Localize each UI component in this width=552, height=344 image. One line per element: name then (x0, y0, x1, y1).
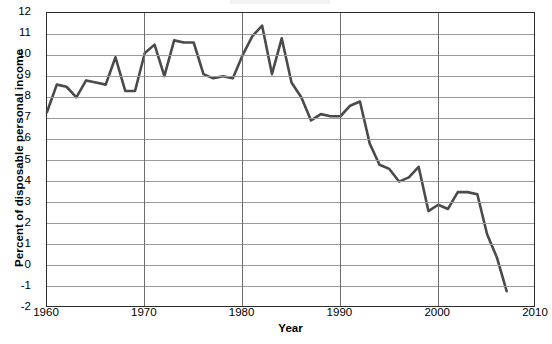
gridline-horizontal (47, 76, 534, 77)
y-tick-label: 7 (5, 111, 31, 123)
y-tick-label: 12 (5, 6, 31, 18)
y-tick-label: 4 (5, 175, 31, 187)
y-tick-label: 1 (5, 238, 31, 250)
plot-area (46, 12, 535, 307)
gridline-vertical (438, 13, 439, 306)
line-chart: Percent of disposable personal income Ye… (0, 0, 552, 344)
gridline-horizontal (47, 286, 534, 287)
gridline-horizontal (47, 118, 534, 119)
gridline-horizontal (47, 160, 534, 161)
gridline-horizontal (47, 223, 534, 224)
gridline-horizontal (47, 265, 534, 266)
y-tick-label: 9 (5, 69, 31, 81)
x-tick-label: 2000 (407, 306, 467, 318)
cropped-title-artifact (230, 0, 330, 4)
gridline-horizontal (47, 34, 534, 35)
gridline-vertical (242, 13, 243, 306)
y-tick-label: 8 (5, 90, 31, 102)
x-tick-label: 1990 (309, 306, 369, 318)
y-tick-label: 2 (5, 217, 31, 229)
gridline-horizontal (47, 55, 534, 56)
gridline-vertical (144, 13, 145, 306)
gridline-horizontal (47, 181, 534, 182)
y-tick-label: 10 (5, 48, 31, 60)
x-tick-label: 1970 (114, 306, 174, 318)
gridline-vertical (340, 13, 341, 306)
gridline-horizontal (47, 97, 534, 98)
y-tick-label: 6 (5, 132, 31, 144)
x-tick-label: 1980 (212, 306, 272, 318)
x-tick-label: 2010 (505, 306, 552, 318)
x-tick-label: 1960 (16, 306, 76, 318)
y-tick-label: -1 (5, 280, 31, 292)
gridline-horizontal (47, 244, 534, 245)
gridline-horizontal (47, 202, 534, 203)
gridline-horizontal (47, 139, 534, 140)
y-tick-label: 0 (5, 259, 31, 271)
x-axis-title: Year (46, 322, 535, 334)
y-tick-label: 3 (5, 196, 31, 208)
y-tick-label: 5 (5, 154, 31, 166)
y-tick-label: 11 (5, 27, 31, 39)
